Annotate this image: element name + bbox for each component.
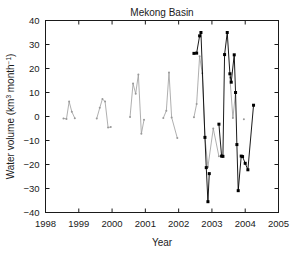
- data-point: [221, 155, 224, 158]
- mekong-basin-line-chart: −40−30−20−100102030401998199920002001200…: [0, 0, 300, 259]
- plot-frame: [46, 21, 279, 213]
- data-point: [132, 83, 134, 85]
- y-axis-tick-label: 40: [29, 15, 40, 26]
- x-axis-tick-label: 2000: [102, 218, 123, 229]
- x-axis-tick-label: 2002: [168, 218, 189, 229]
- data-point: [232, 117, 234, 119]
- x-axis-tick-label: 2001: [135, 218, 156, 229]
- data-point: [165, 110, 167, 112]
- data-point: [233, 53, 236, 56]
- data-point: [217, 123, 220, 126]
- data-point: [226, 31, 229, 34]
- data-point: [104, 101, 106, 103]
- series-gravimetric-gray: [62, 55, 244, 168]
- y-axis-tick-label: 0: [34, 111, 39, 122]
- data-point: [193, 116, 195, 118]
- data-point: [218, 155, 220, 157]
- data-point: [71, 111, 73, 113]
- data-point: [196, 103, 198, 105]
- data-point: [252, 104, 255, 107]
- data-point: [230, 81, 233, 84]
- data-point: [198, 34, 201, 37]
- x-axis-tick-label: 1998: [35, 218, 56, 229]
- data-point: [171, 116, 173, 118]
- data-point: [162, 117, 164, 119]
- data-point: [246, 168, 249, 171]
- y-axis-tick-label: −30: [23, 183, 39, 194]
- data-point: [101, 98, 103, 100]
- data-point: [235, 143, 238, 146]
- series-line: [63, 102, 74, 119]
- data-point: [195, 52, 198, 55]
- data-point: [205, 166, 208, 169]
- data-point: [176, 137, 178, 139]
- data-point: [140, 133, 142, 135]
- chart-figure: −40−30−20−100102030401998199920002001200…: [0, 0, 300, 259]
- y-axis-tick-label: −20: [23, 159, 39, 170]
- chart-title: Mekong Basin: [130, 7, 193, 18]
- data-point: [143, 119, 145, 121]
- data-point: [99, 107, 101, 109]
- series-line: [163, 73, 177, 139]
- x-axis-tick-label: 2004: [235, 218, 256, 229]
- data-point: [135, 93, 137, 95]
- data-point: [206, 200, 209, 203]
- x-axis-tick-label: 1999: [68, 218, 89, 229]
- series-line: [194, 33, 209, 202]
- data-point: [192, 52, 195, 55]
- data-point: [212, 128, 214, 130]
- data-point: [62, 117, 64, 119]
- data-point: [137, 74, 139, 76]
- data-point: [129, 116, 131, 118]
- x-axis-tick-label: 2005: [268, 218, 289, 229]
- y-axis-title: Water volume (km3 month−1): [5, 54, 16, 180]
- data-point: [237, 189, 240, 192]
- data-point: [203, 136, 206, 139]
- y-axis-tick-label: 20: [29, 63, 40, 74]
- data-point: [244, 162, 247, 165]
- data-point: [107, 127, 109, 129]
- data-point: [68, 101, 70, 103]
- data-point: [110, 126, 112, 128]
- y-axis-tick-label: −40: [23, 207, 39, 218]
- series-line: [219, 33, 254, 191]
- data-point: [65, 118, 67, 120]
- x-axis-tick-label: 2003: [201, 218, 222, 229]
- data-point: [241, 155, 244, 158]
- data-point: [199, 31, 202, 34]
- series-line: [97, 99, 111, 128]
- data-point: [74, 117, 76, 119]
- data-point: [223, 53, 226, 56]
- x-axis-title: Year: [152, 237, 173, 248]
- y-axis-tick-label: 30: [29, 39, 40, 50]
- data-point: [228, 72, 231, 75]
- data-point: [96, 117, 98, 119]
- y-axis-tick-label: −10: [23, 135, 39, 146]
- series-line: [194, 56, 219, 167]
- data-point: [208, 172, 211, 175]
- series-altimetric-black: [192, 31, 255, 203]
- data-point: [199, 55, 201, 57]
- data-point: [234, 91, 237, 94]
- y-axis-tick-label: 10: [29, 87, 40, 98]
- data-point: [243, 118, 245, 120]
- data-point: [168, 72, 170, 74]
